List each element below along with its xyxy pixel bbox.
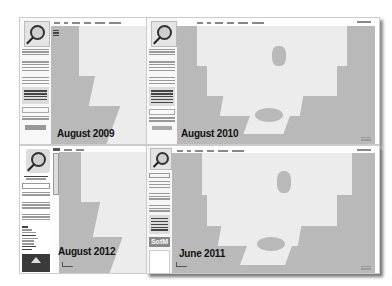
- search-box[interactable]: [22, 107, 49, 113]
- tab-export[interactable]: [84, 22, 91, 24]
- scale-bar: [62, 262, 73, 267]
- map-view[interactable]: [177, 26, 375, 144]
- tab-edit[interactable]: [53, 148, 60, 151]
- link-copyright[interactable]: [22, 232, 36, 233]
- link-about[interactable]: [22, 229, 32, 230]
- search-input[interactable]: [22, 183, 50, 189]
- screenshot-jun-2011: SotM June 2011: [146, 145, 380, 274]
- sidebar: [147, 18, 177, 144]
- tab-view[interactable]: [54, 22, 60, 24]
- links-box: [149, 215, 170, 234]
- links-box: [149, 87, 175, 106]
- tab-gps[interactable]: [218, 150, 228, 152]
- mountain-icon: [31, 257, 41, 263]
- link-community[interactable]: [22, 235, 36, 236]
- link-map-key[interactable]: [22, 249, 32, 250]
- link-community-blog[interactable]: [151, 227, 168, 228]
- link-shop[interactable]: [151, 99, 173, 100]
- donate-button[interactable]: [25, 125, 46, 130]
- hudson-bay: [277, 171, 291, 193]
- tab-gps[interactable]: [238, 22, 248, 24]
- screenshot-aug-2009: August 2009: [19, 17, 151, 145]
- donate-button[interactable]: [152, 126, 172, 130]
- caption: June 2011: [179, 248, 225, 259]
- hudson-bay: [272, 46, 286, 66]
- link-gps[interactable]: [22, 243, 34, 244]
- sidebar: [20, 146, 52, 273]
- link-copyright[interactable]: [151, 93, 173, 94]
- link-help[interactable]: [22, 226, 28, 227]
- search-box[interactable]: [149, 173, 170, 178]
- link-map-key[interactable]: [24, 99, 47, 100]
- sidebar: SotM: [147, 146, 172, 273]
- nav-tabs: [54, 20, 121, 25]
- link-news[interactable]: [24, 93, 47, 94]
- tab-export[interactable]: [76, 149, 84, 151]
- sidebar-blank-area: [149, 250, 170, 274]
- tab-view[interactable]: [197, 22, 203, 24]
- attribution[interactable]: [361, 264, 371, 269]
- link-shop[interactable]: [24, 96, 47, 97]
- link-help[interactable]: [24, 90, 47, 91]
- screenshot-aug-2010: August 2010: [146, 17, 380, 145]
- sotm-badge[interactable]: SotM: [149, 237, 170, 247]
- gulf-of-mexico: [255, 108, 283, 122]
- tab-history[interactable]: [64, 149, 72, 151]
- sponsor-logo[interactable]: [22, 254, 50, 272]
- osm-logo[interactable]: [150, 148, 172, 170]
- map-view[interactable]: [51, 26, 150, 144]
- link-help[interactable]: [151, 90, 173, 91]
- link-foundation[interactable]: [151, 229, 168, 230]
- caption: August 2009: [57, 128, 114, 139]
- tab-gps[interactable]: [95, 22, 105, 24]
- link-map-key[interactable]: [151, 102, 173, 103]
- sidebar: [20, 18, 51, 144]
- tab-edit[interactable]: [187, 150, 191, 152]
- tab-history[interactable]: [195, 150, 203, 152]
- tab-diaries[interactable]: [232, 150, 244, 152]
- tab-history[interactable]: [215, 22, 223, 24]
- tab-diaries[interactable]: [252, 22, 264, 24]
- login-link[interactable]: [357, 149, 371, 151]
- tab-export[interactable]: [227, 22, 234, 24]
- screenshot-aug-2012: August 2012: [19, 145, 151, 274]
- osm-logo[interactable]: [24, 21, 50, 47]
- tab-export[interactable]: [207, 150, 214, 152]
- tab-edit[interactable]: [207, 22, 211, 24]
- nav-tabs: [197, 20, 264, 25]
- caption: August 2012: [58, 246, 115, 257]
- link-documentation[interactable]: [151, 221, 168, 222]
- osm-logo[interactable]: [26, 149, 50, 173]
- link-community-blog[interactable]: [22, 238, 38, 239]
- tab-view[interactable]: [177, 150, 183, 152]
- osm-logo[interactable]: [151, 21, 177, 47]
- map-layer-links[interactable]: [53, 28, 59, 38]
- tab-edit[interactable]: [64, 22, 68, 24]
- link-user-diaries[interactable]: [22, 246, 36, 247]
- link-help-centre[interactable]: [151, 218, 168, 219]
- attribution[interactable]: [361, 135, 371, 140]
- caption: August 2010: [181, 128, 238, 139]
- login-link[interactable]: [357, 21, 371, 23]
- link-copyright[interactable]: [151, 224, 168, 225]
- scale-bar: [176, 262, 187, 267]
- link-news[interactable]: [151, 96, 173, 97]
- tab-diaries[interactable]: [109, 22, 121, 24]
- links-box: [22, 87, 49, 104]
- gulf-of-mexico: [257, 237, 285, 251]
- search-box[interactable]: [149, 109, 175, 115]
- tab-history[interactable]: [72, 22, 80, 24]
- link-foundation[interactable]: [22, 240, 34, 241]
